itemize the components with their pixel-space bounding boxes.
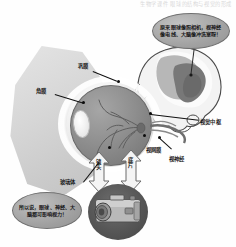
vision-warning-callout: 所以说，眼球、神经、大脑都可影响视力！ xyxy=(12,192,82,229)
label-cornea: 角膜 xyxy=(36,88,46,94)
header-strip: 生物学课件 眼球的结构与视觉的形成 xyxy=(60,0,236,9)
label-camera-film: 底片 xyxy=(127,157,133,167)
diagram-canvas: 生物学课件 眼球的结构与视觉的形成 xyxy=(0,0,236,247)
label-visual-cortex: 视觉中枢 xyxy=(200,119,221,125)
camera-illustration xyxy=(88,184,154,242)
label-vitreous-body: 玻璃体 xyxy=(60,179,76,185)
label-sclera: 巩膜 xyxy=(78,63,88,69)
label-retina: 视网膜 xyxy=(146,147,162,153)
visual-cortex-callout: 原来眼球像照相机，视神经像电线、大脑像冲洗室呀！ xyxy=(152,13,230,49)
optic-nerve-bundle xyxy=(150,118,190,146)
label-optic-nerve: 视神经 xyxy=(169,156,185,162)
